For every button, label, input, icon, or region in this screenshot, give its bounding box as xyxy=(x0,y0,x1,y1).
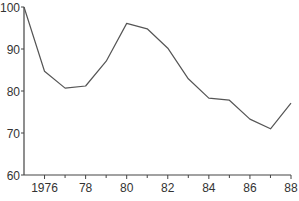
y-tick-label: 60 xyxy=(7,169,21,183)
y-tick-label: 90 xyxy=(7,43,21,57)
x-tick-label: 88 xyxy=(284,181,298,195)
y-tick-label: 70 xyxy=(7,127,21,141)
x-tick-label: 78 xyxy=(79,181,93,195)
line-chart: 60708090100 1976788082848688 xyxy=(0,0,299,201)
y-tick-label: 100 xyxy=(0,1,20,15)
data-line xyxy=(24,7,291,129)
y-axis: 60708090100 xyxy=(0,1,24,183)
x-tick-label: 1976 xyxy=(31,181,58,195)
x-tick-label: 82 xyxy=(161,181,175,195)
y-tick-label: 80 xyxy=(7,85,21,99)
x-tick-label: 84 xyxy=(202,181,216,195)
x-tick-label: 86 xyxy=(243,181,257,195)
x-tick-label: 80 xyxy=(120,181,134,195)
x-axis: 1976788082848688 xyxy=(24,175,298,195)
